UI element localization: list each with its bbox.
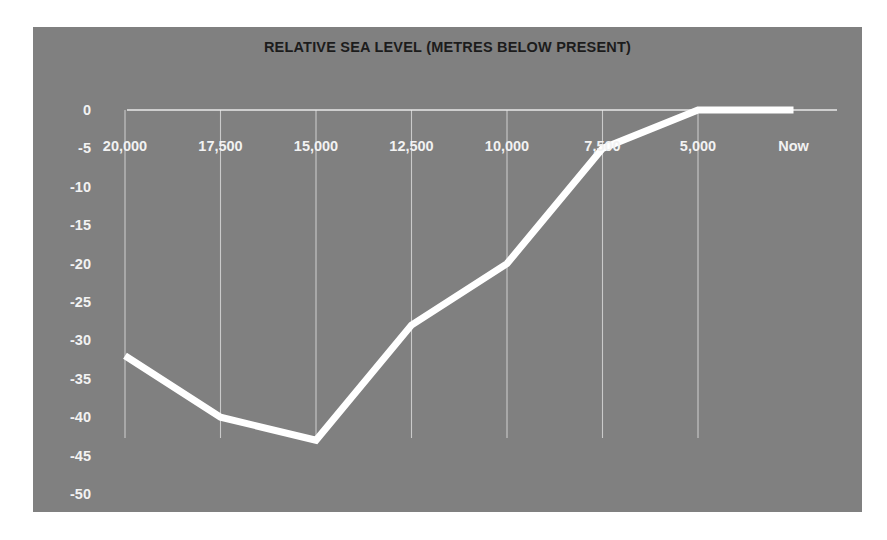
x-axis-tick-label: 5,000 [680, 139, 716, 154]
y-axis-tick-label: -10 [45, 180, 91, 195]
x-axis-tick-label: Now [778, 139, 809, 154]
chart-plot-svg [33, 27, 862, 512]
x-axis-tick-label: 20,000 [103, 139, 147, 154]
y-axis-tick-label: -40 [45, 410, 91, 425]
y-axis-tick-labels: 0-5-10-15-20-25-30-35-40-45-50 [33, 27, 91, 512]
x-axis-tick-label: 7,500 [584, 139, 620, 154]
x-axis-tick-label: 15,000 [294, 139, 338, 154]
sea-level-chart-figure: RELATIVE SEA LEVEL (METRES BELOW PRESENT… [0, 0, 887, 540]
x-axis-tick-label: 12,500 [389, 139, 433, 154]
y-axis-tick-label: -20 [45, 256, 91, 271]
plot-area: RELATIVE SEA LEVEL (METRES BELOW PRESENT… [33, 27, 862, 512]
y-axis-tick-label: -45 [45, 448, 91, 463]
x-axis-tick-label: 10,000 [485, 139, 529, 154]
y-axis-tick-label: -25 [45, 295, 91, 310]
x-axis-tick-label: 17,500 [198, 139, 242, 154]
y-axis-tick-label: -15 [45, 218, 91, 233]
x-axis-tick-labels: 20,00017,50015,00012,50010,0007,5005,000… [33, 139, 862, 161]
y-axis-tick-label: 0 [45, 103, 91, 118]
y-axis-tick-label: -30 [45, 333, 91, 348]
y-axis-tick-label: -50 [45, 487, 91, 502]
y-axis-tick-label: -35 [45, 372, 91, 387]
